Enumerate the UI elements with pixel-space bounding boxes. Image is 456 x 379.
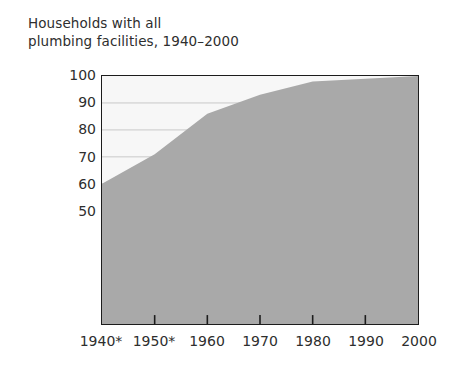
x-tick-label: 1970 [242,333,278,349]
area-series-plumbing-facilities [102,76,418,324]
x-tick-label: 1980 [295,333,331,349]
plot-area [101,75,419,325]
y-tick-label: 80 [62,122,96,136]
y-tick-label: 90 [62,95,96,109]
x-tick-label: 1950* [133,333,176,349]
x-tick-label: 1960 [189,333,225,349]
y-tick-label: 70 [62,150,96,164]
y-axis-tick-labels: 1009080706050 [56,0,96,379]
y-tick-label: 60 [62,177,96,191]
area-chart-svg [102,76,418,324]
x-tick-label: 1990 [348,333,384,349]
chart-figure: Households with all plumbing facilities,… [0,0,456,379]
x-tick-label: 2000 [401,333,437,349]
y-tick-label: 100 [62,68,96,82]
y-tick-label: 50 [62,204,96,218]
x-axis-tick-labels: 1940*1950*19601970198019902000 [0,333,456,357]
x-tick-label: 1940* [80,333,123,349]
